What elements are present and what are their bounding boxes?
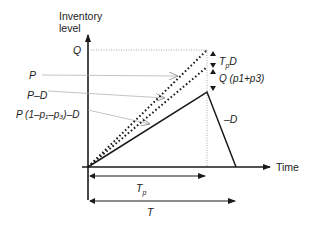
line-rate-p-minus-d (88, 67, 207, 167)
label-q-p1-p3: Q (p1+p3) (219, 73, 264, 85)
x-axis-label: Time (276, 161, 299, 173)
label-minus-d: –D (224, 113, 237, 125)
p-minus-d-pointer (48, 91, 165, 98)
label-tp: Tp (136, 182, 146, 199)
line-rate-p (88, 50, 207, 167)
marker-down-bottom (210, 86, 216, 91)
y-axis-label-line1: Inventory (59, 10, 102, 22)
label-t: T (147, 206, 153, 218)
line-effective-inventory (88, 92, 236, 167)
label-tp-d: TpD (219, 55, 237, 72)
label-p-minus-d: P–D (27, 89, 47, 101)
marker-up-mid (210, 69, 216, 74)
label-p: P (29, 69, 36, 81)
marker-up-top (210, 51, 216, 56)
label-q: Q (73, 44, 81, 56)
label-effective-rate: P (1–p₁–p₃)–D (16, 109, 79, 121)
p-pointer (42, 75, 178, 76)
marker-down-mid (210, 63, 216, 68)
y-axis-label-line2: level (59, 22, 81, 34)
